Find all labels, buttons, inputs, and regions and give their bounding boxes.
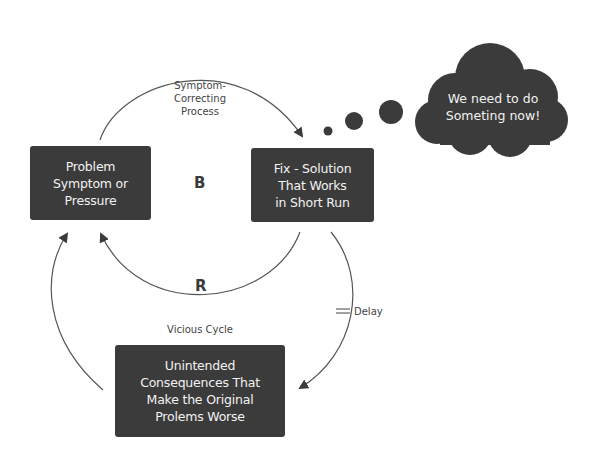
arrow-consequences-to-problem — [51, 234, 103, 390]
cloud-line-2: Someting now! — [430, 107, 556, 124]
node-consequences-line-4: Prolems Worse — [140, 408, 260, 425]
node-problem-line-1: Problem — [53, 158, 128, 175]
thought-bubble-medium — [345, 112, 363, 130]
label-symptom-line-2: Correcting — [150, 92, 250, 105]
thought-cloud-text: We need to do Someting now! — [430, 90, 556, 124]
node-unintended-consequences: Unintended Consequences That Make the Or… — [115, 345, 285, 437]
label-delay: Delay — [354, 305, 383, 318]
label-symptom-line-3: Process — [150, 105, 250, 118]
delay-mark-icon — [336, 309, 350, 313]
loop-label-balancing: B — [194, 174, 205, 192]
connector-arrows — [0, 0, 601, 465]
node-problem-line-3: Pressure — [53, 192, 128, 209]
node-fix-line-3: in Short Run — [274, 194, 352, 211]
node-consequences-line-1: Unintended — [140, 357, 260, 374]
thought-bubble-large — [379, 100, 403, 124]
label-vicious-cycle: Vicious Cycle — [150, 323, 250, 336]
node-consequences-line-3: Make the Original — [140, 391, 260, 408]
node-problem-symptom: Problem Symptom or Pressure — [30, 146, 151, 220]
loop-label-reinforcing: R — [195, 277, 207, 295]
node-problem-line-2: Symptom or — [53, 175, 128, 192]
label-symptom-correcting: Symptom- Correcting Process — [150, 79, 250, 118]
node-fix-solution: Fix - Solution That Works in Short Run — [251, 148, 374, 222]
diagram-canvas: Problem Symptom or Pressure Fix - Soluti… — [0, 0, 601, 465]
thought-bubble-small — [324, 127, 333, 136]
label-symptom-line-1: Symptom- — [150, 79, 250, 92]
node-fix-line-1: Fix - Solution — [274, 160, 352, 177]
cloud-line-1: We need to do — [430, 90, 556, 107]
node-consequences-line-2: Consequences That — [140, 374, 260, 391]
node-fix-line-2: That Works — [274, 177, 352, 194]
arrow-fix-to-consequences — [300, 232, 353, 388]
